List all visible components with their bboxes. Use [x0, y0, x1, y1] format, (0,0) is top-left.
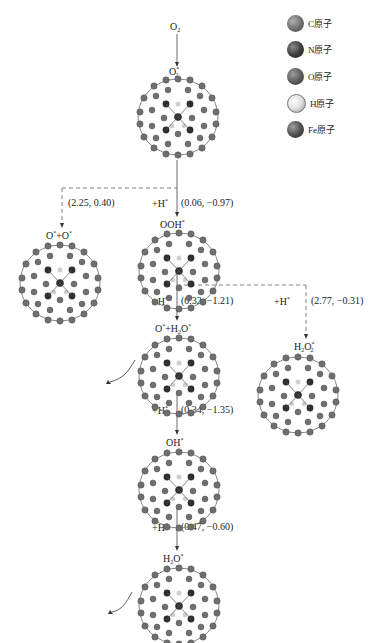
legend-label: C原子: [308, 17, 332, 30]
step-values-s1: (2.25, 0.40): [68, 198, 115, 208]
cage-o-plus-o: [10, 240, 110, 326]
legend-label: O原子: [308, 70, 333, 83]
label-o2: O2: [170, 22, 180, 33]
legend-label: H原子: [310, 97, 335, 110]
legend-item-h: H原子: [287, 94, 335, 113]
legend-label: N原子: [308, 43, 333, 56]
iron-atom-icon: [287, 121, 304, 138]
oxygen-atom-icon: [287, 68, 304, 85]
cage-h2o2: [254, 352, 342, 438]
step-reagent-s4: +H*: [274, 296, 290, 307]
step-values-s2: (0.06, −0.97): [181, 198, 233, 208]
legend-item-o: O原子: [287, 68, 333, 85]
carbon-atom-icon: [287, 15, 304, 32]
cage-h2o: [135, 563, 223, 643]
step-values-s4: (2.77, −0.31): [311, 296, 363, 306]
cage-o2-adsorbed: [134, 74, 222, 160]
hydrogen-atom-icon: [287, 94, 306, 113]
legend-item-fe: Fe原子: [287, 121, 335, 138]
nitrogen-atom-icon: [287, 41, 304, 58]
cage-o-plus-h2o: [135, 333, 223, 419]
step-reagent-s2: +H*: [152, 198, 168, 209]
legend-label: Fe原子: [308, 123, 335, 136]
legend-item-c: C原子: [287, 15, 332, 32]
cage-oh: [135, 447, 223, 533]
legend-item-n: N原子: [287, 41, 333, 58]
cage-ooh: [135, 228, 223, 314]
